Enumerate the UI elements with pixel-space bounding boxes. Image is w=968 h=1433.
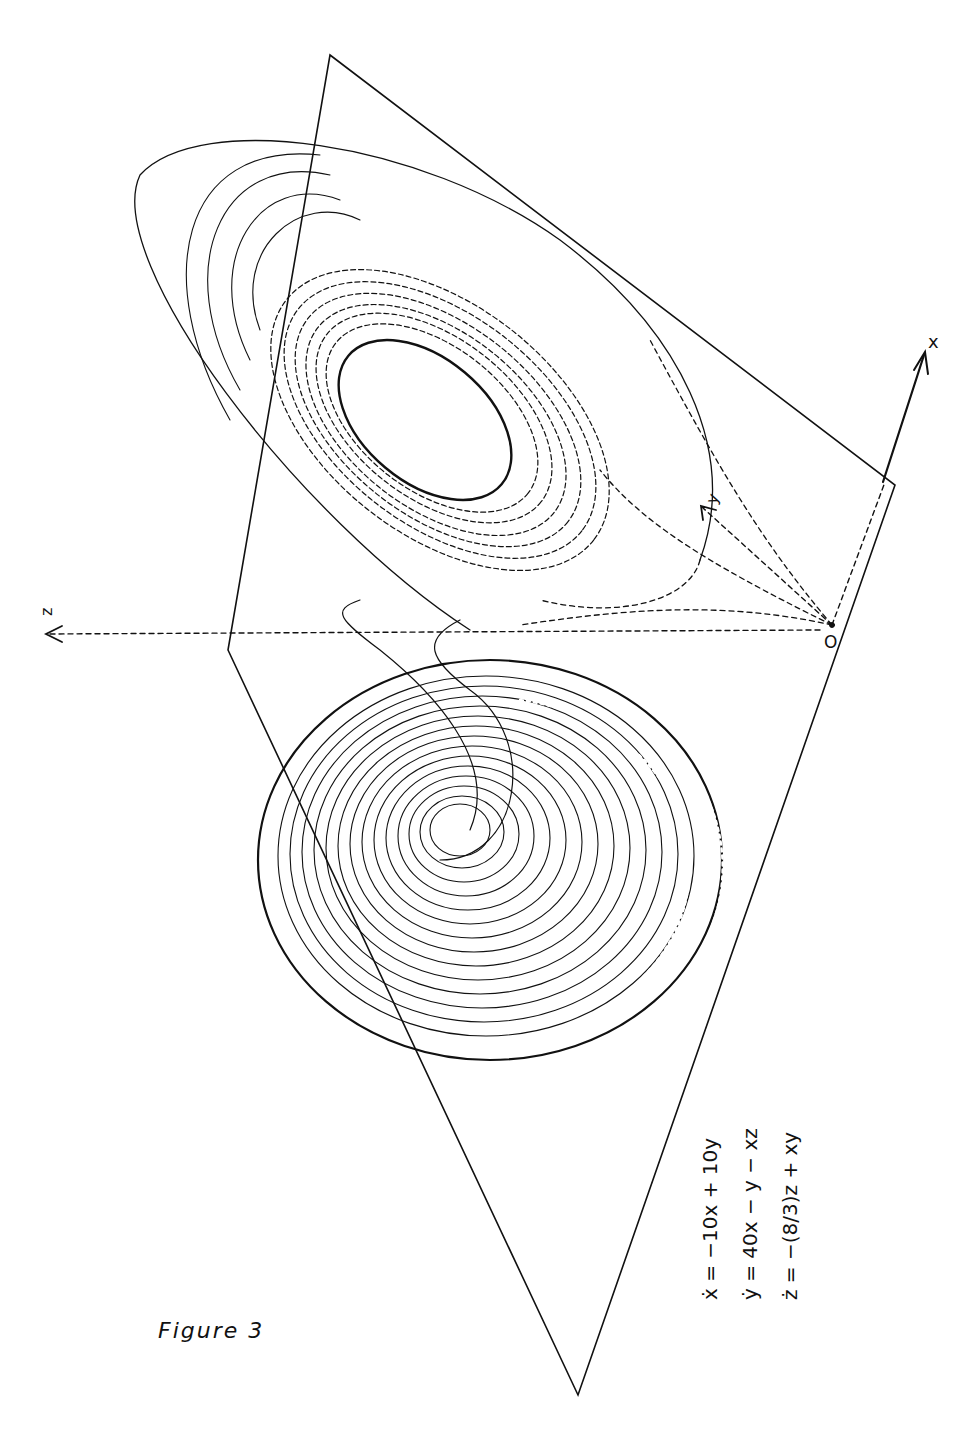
equation-x: ẋ = −10x + 10y <box>690 1128 730 1300</box>
lorenz-equations: ẋ = −10x + 10y ẏ = 40x − y − xz ż = −(8/… <box>690 1128 810 1300</box>
x-axis-label: x <box>928 331 939 352</box>
figure-caption: Figure 3 <box>158 1318 264 1343</box>
y-axis <box>703 508 832 625</box>
lower-lobe <box>258 600 723 1060</box>
origin-ray <box>600 470 832 625</box>
origin-ray <box>650 340 832 625</box>
lorenz-attractor-diagram: x y z O <box>0 0 968 1433</box>
upper-lobe <box>135 141 713 631</box>
equation-y: ẏ = 40x − y − xz <box>730 1128 770 1300</box>
z-axis <box>48 630 820 634</box>
x-axis-hidden <box>832 482 885 625</box>
z-axis-label: z <box>37 608 56 616</box>
origin-ray <box>520 610 832 625</box>
origin-point <box>830 623 835 628</box>
x-axis <box>883 355 924 482</box>
equation-z: ż = −(8/3)z + xy <box>770 1128 810 1300</box>
origin-label: O <box>824 632 837 652</box>
